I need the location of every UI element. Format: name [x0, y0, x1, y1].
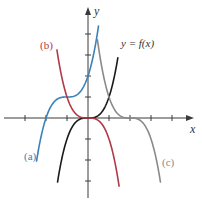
curve-label-a: (a) [24, 150, 37, 163]
x-axis-arrow-icon [186, 115, 194, 121]
axis-ticks [25, 34, 172, 181]
x-axis: x [4, 115, 196, 136]
x-axis-label: x [189, 122, 196, 136]
curve-c [97, 40, 160, 182]
curves [37, 26, 161, 186]
function-transformation-plot: x y y = f(x)(a)(b)(c) [0, 0, 202, 200]
curve-label-b: (b) [40, 39, 53, 52]
y-axis-arrow-icon [85, 7, 91, 15]
y-axis-label: y [93, 4, 100, 18]
curve-label-c: (c) [162, 156, 175, 169]
curve-label-f: y = f(x) [120, 37, 154, 50]
